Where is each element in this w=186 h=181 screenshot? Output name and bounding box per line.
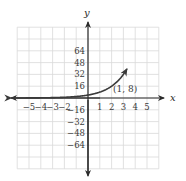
y-tick-label: 64 bbox=[74, 46, 85, 56]
x-tick-labels: −5−4−3−212345 bbox=[23, 102, 150, 112]
x-tick-label: −4 bbox=[35, 102, 48, 112]
x-tick-label: 3 bbox=[121, 102, 126, 112]
y-tick-label: −32 bbox=[67, 117, 85, 127]
x-axis-label: x bbox=[170, 92, 176, 103]
x-tick-label: 1 bbox=[97, 102, 102, 112]
y-tick-label: −16 bbox=[67, 105, 85, 115]
x-tick-label: 2 bbox=[109, 102, 114, 112]
x-tick-label: −5 bbox=[23, 102, 36, 112]
x-tick-label: 4 bbox=[132, 102, 137, 112]
point-annotation: (1, 8) bbox=[113, 84, 137, 94]
y-tick-label: 48 bbox=[74, 58, 85, 68]
y-tick-label: 16 bbox=[74, 81, 85, 91]
exponential-graph: x y −5−4−3−212345 64483216−16−32−48−64 (… bbox=[0, 0, 186, 181]
x-tick-label: 5 bbox=[144, 102, 149, 112]
y-tick-label: −64 bbox=[67, 140, 85, 150]
y-tick-label: 32 bbox=[74, 69, 85, 79]
y-tick-label: −48 bbox=[67, 128, 85, 138]
y-axis-label: y bbox=[83, 7, 90, 18]
x-tick-label: −3 bbox=[46, 102, 59, 112]
